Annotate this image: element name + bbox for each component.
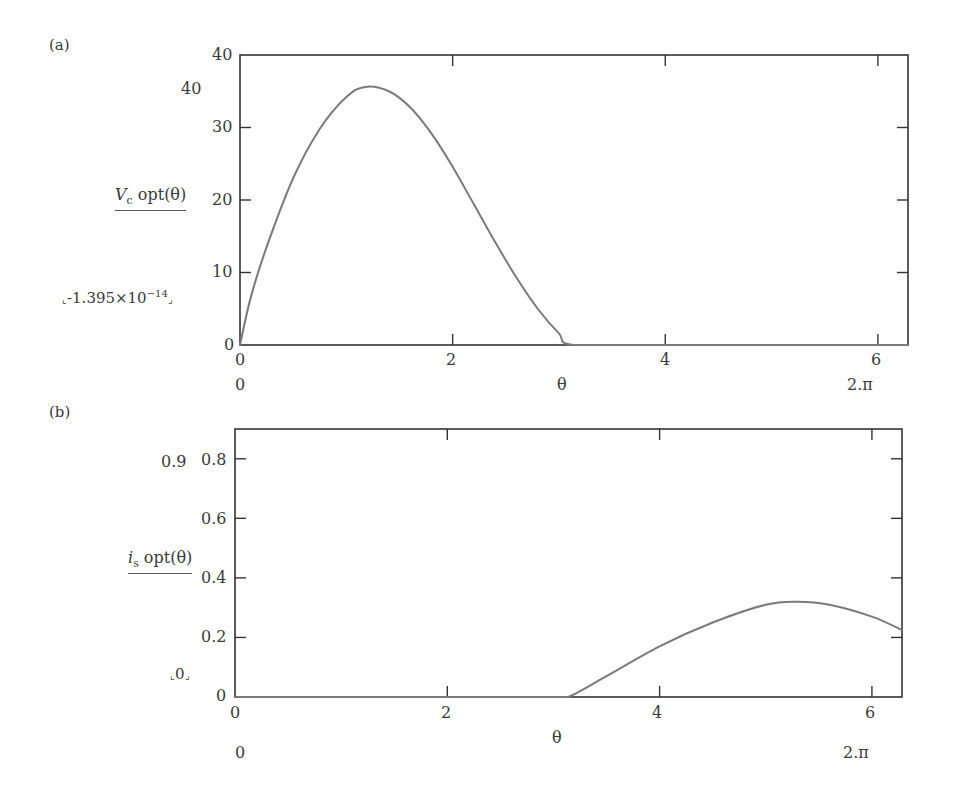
plot-frame [240,55,908,345]
plot-frame [235,429,902,697]
data-series-line [235,602,902,697]
data-series-line [240,87,908,345]
plots-canvas [0,0,954,795]
plot-area-a [240,55,908,345]
plot-area-b [235,429,902,697]
